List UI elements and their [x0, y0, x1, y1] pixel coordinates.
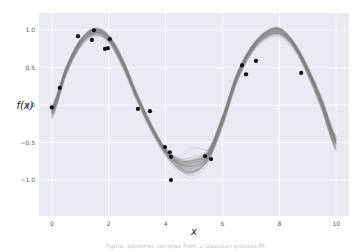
data-point	[148, 109, 152, 113]
x-tick-label: 0	[50, 220, 54, 227]
data-point	[254, 59, 258, 63]
data-point	[90, 38, 94, 42]
data-point	[240, 63, 244, 67]
data-point	[169, 178, 173, 182]
gp-posterior-chart: 0246810 1.00.50.0−0.5−1.0 x f(x) Figure:…	[0, 0, 357, 251]
x-tick-label: 6	[221, 220, 225, 227]
data-point	[169, 155, 173, 159]
x-tick-label: 4	[164, 220, 168, 227]
x-axis-label: x	[190, 226, 197, 237]
data-point	[203, 154, 207, 158]
x-tick-label: 10	[332, 220, 340, 227]
y-tick-label: −0.5	[20, 139, 35, 146]
y-axis-label: f(x)	[16, 100, 33, 111]
y-tick-label: 0.5	[25, 64, 35, 71]
figure-caption: Figure: posterior samples from a Gaussia…	[105, 242, 266, 250]
data-point	[76, 34, 80, 38]
data-point	[209, 157, 213, 161]
data-point	[244, 72, 248, 76]
x-tick-label: 8	[277, 220, 281, 227]
y-tick-label: −1.0	[20, 176, 35, 183]
data-point	[108, 37, 112, 41]
plot-background	[39, 13, 349, 216]
data-point	[50, 105, 54, 109]
data-point	[58, 86, 62, 90]
x-tick-label: 2	[107, 220, 111, 227]
data-point	[136, 107, 140, 111]
data-point	[163, 145, 167, 149]
data-point	[106, 46, 110, 50]
y-tick-label: 1.0	[25, 26, 35, 33]
data-point	[168, 150, 172, 154]
data-point	[299, 71, 303, 75]
data-point	[92, 28, 96, 32]
